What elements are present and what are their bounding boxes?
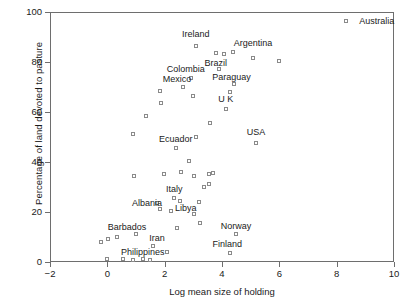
point-label: Norway	[221, 221, 252, 230]
data-point	[192, 212, 196, 216]
data-point	[198, 221, 202, 225]
point-label: U K	[218, 95, 233, 104]
data-point	[115, 235, 119, 239]
point-label: USA	[247, 127, 266, 136]
data-point	[141, 257, 145, 261]
y-tick-label: 20	[2, 207, 42, 217]
point-label: Barbados	[108, 222, 147, 231]
data-point	[131, 258, 135, 262]
data-point	[231, 50, 235, 54]
x-tick-mark	[279, 262, 280, 267]
data-point	[169, 209, 173, 213]
data-point	[144, 114, 148, 118]
data-point	[162, 172, 166, 176]
data-point	[344, 19, 348, 23]
x-tick-label: 10	[379, 269, 409, 279]
x-tick-label: 4	[207, 269, 237, 279]
point-label: Ecuador	[159, 135, 193, 144]
x-tick-mark	[222, 262, 223, 267]
x-tick-label: −2	[35, 269, 65, 279]
data-point	[194, 135, 198, 139]
data-point	[228, 251, 232, 255]
data-point	[121, 257, 125, 261]
data-point	[134, 232, 138, 236]
y-tick-label: 80	[2, 57, 42, 67]
y-tick-label: 60	[2, 107, 42, 117]
data-point	[211, 171, 215, 175]
data-point	[99, 240, 103, 244]
x-tick-label: 0	[92, 269, 122, 279]
x-axis-title: Log mean size of holding	[50, 286, 394, 297]
data-point	[191, 94, 195, 98]
point-label: Italy	[166, 185, 183, 194]
data-point	[277, 59, 281, 63]
point-label: Ireland	[182, 30, 210, 39]
point-label: Libya	[175, 204, 197, 213]
data-point	[179, 170, 183, 174]
data-point	[214, 51, 218, 55]
data-point	[131, 132, 135, 136]
x-tick-label: 8	[322, 269, 352, 279]
data-point	[165, 250, 169, 254]
data-point	[197, 200, 201, 204]
data-point	[181, 85, 185, 89]
point-label: Finland	[213, 240, 243, 249]
data-point	[254, 141, 258, 145]
data-point	[158, 207, 162, 211]
point-label: Colombia	[167, 65, 205, 74]
point-label: Iran	[149, 234, 165, 243]
point-label: Argentina	[234, 39, 273, 48]
data-point	[174, 146, 178, 150]
data-point	[194, 44, 198, 48]
x-tick-mark	[107, 262, 108, 267]
x-tick-mark	[394, 262, 395, 267]
data-point	[207, 182, 211, 186]
x-tick-label: 2	[150, 269, 180, 279]
data-point	[106, 237, 110, 241]
data-point	[105, 257, 109, 261]
data-point	[208, 121, 212, 125]
data-point	[222, 52, 226, 56]
data-point	[251, 56, 255, 60]
data-point	[234, 232, 238, 236]
scatter-plot-figure: Percentage of land devoted to pasture 02…	[0, 0, 412, 305]
data-point	[148, 258, 152, 262]
data-point	[159, 101, 163, 105]
point-label: Mexico	[163, 75, 192, 84]
data-point	[132, 174, 136, 178]
point-label: Brazil	[205, 59, 228, 68]
data-point	[187, 159, 191, 163]
x-tick-label: 6	[264, 269, 294, 279]
data-point	[158, 89, 162, 93]
data-point	[192, 174, 196, 178]
data-point	[172, 196, 176, 200]
point-label: Philippines	[121, 247, 165, 256]
point-label: Paraguay	[212, 72, 251, 81]
data-point	[224, 107, 228, 111]
data-point	[175, 226, 179, 230]
x-tick-mark	[50, 262, 51, 267]
plot-area: AustraliaIrelandArgentinaBrazilColombiaM…	[50, 12, 394, 262]
y-tick-label: 40	[2, 157, 42, 167]
data-point	[232, 82, 236, 86]
point-label: Albania	[132, 199, 162, 208]
point-label: Australia	[359, 16, 394, 25]
y-tick-label: 100	[2, 7, 42, 17]
x-tick-mark	[165, 262, 166, 267]
x-tick-mark	[337, 262, 338, 267]
y-tick-label: 0	[2, 257, 42, 267]
